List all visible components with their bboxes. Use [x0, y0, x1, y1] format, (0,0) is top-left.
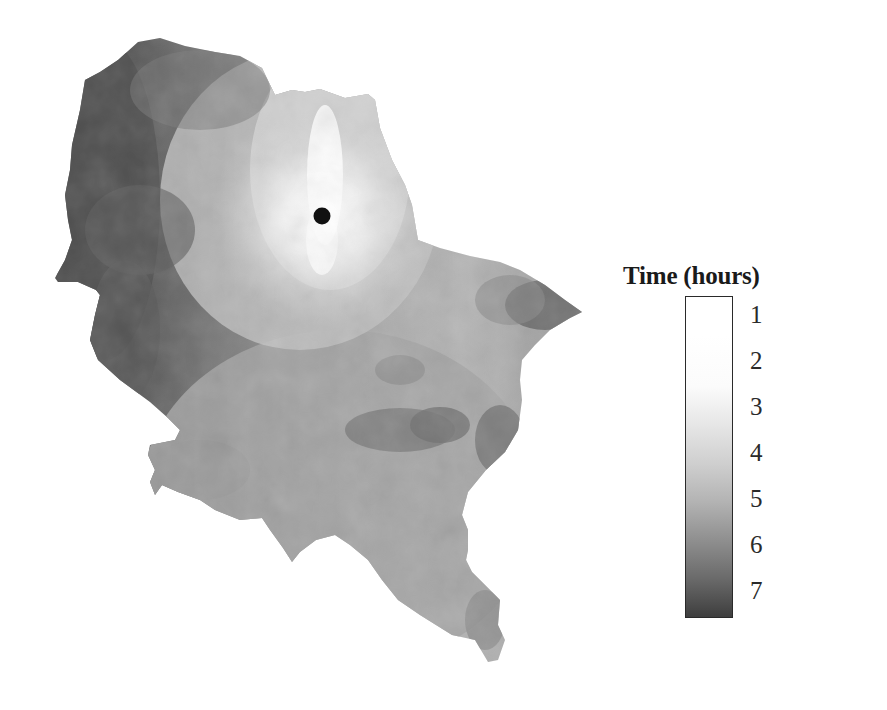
legend-title: Time (hours) [623, 262, 760, 290]
legend-tick: 7 [750, 578, 763, 603]
legend-tick: 3 [750, 394, 763, 419]
legend-tick: 2 [750, 348, 763, 373]
legend-tick-labels: 1 2 3 4 5 6 7 [750, 302, 790, 632]
legend-tick: 1 [750, 302, 763, 327]
legend-color-bar [685, 296, 733, 618]
origin-point-marker [314, 208, 331, 225]
legend-tick: 6 [750, 532, 763, 557]
legend-tick: 4 [750, 440, 763, 465]
legend-tick: 5 [750, 486, 763, 511]
travel-time-raster [40, 30, 600, 680]
